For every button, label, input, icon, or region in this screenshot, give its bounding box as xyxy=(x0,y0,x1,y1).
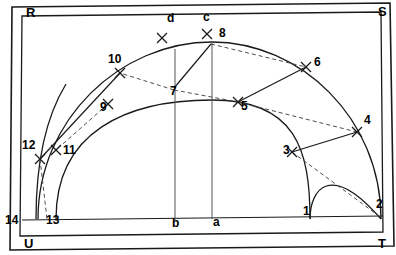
corner-label-r: R xyxy=(26,5,36,20)
mark-d-icon xyxy=(157,33,167,43)
point-label-10: 10 xyxy=(108,52,122,66)
point-label-3: 3 xyxy=(283,143,290,157)
point-label-1: 1 xyxy=(303,204,310,218)
point-label-5: 5 xyxy=(241,99,248,113)
geometric-construction-figure: RSUT dcba 1234567891011121314 xyxy=(0,0,396,255)
corner-label-s: S xyxy=(378,4,387,19)
frame-inner-border xyxy=(20,12,383,236)
mark-c-icon xyxy=(202,29,212,39)
point-label-8: 8 xyxy=(219,26,226,40)
chord-5-6 xyxy=(238,67,306,102)
chord-7-8 xyxy=(174,44,211,88)
corner-label-u: U xyxy=(24,236,33,251)
point-label-4: 4 xyxy=(364,113,371,127)
point-label-12: 12 xyxy=(22,138,36,152)
point-label-2: 2 xyxy=(376,197,383,211)
mark-6-icon xyxy=(301,62,311,72)
dashed-rays-group xyxy=(40,44,379,219)
aux-label-a: a xyxy=(213,215,220,229)
chord-3-4 xyxy=(292,132,357,152)
vertical-lines-group xyxy=(175,42,212,220)
ray-7-10 xyxy=(120,73,174,90)
diagram-root: RSUT dcba 1234567891011121314 xyxy=(0,0,396,255)
point-label-14: 14 xyxy=(5,213,19,227)
point-label-13: 13 xyxy=(46,213,60,227)
inner-semicircle-arc xyxy=(56,100,310,219)
point-label-6: 6 xyxy=(314,55,321,69)
point-labels-group: 1234567891011121314 xyxy=(5,26,383,227)
outer-semicircle-arc xyxy=(38,42,381,219)
corner-label-t: T xyxy=(378,236,386,251)
small-right-arc xyxy=(310,185,381,219)
solid-chords-group xyxy=(40,44,357,159)
point-label-7: 7 xyxy=(170,84,177,98)
cross-marks-group xyxy=(35,29,362,164)
arc-group xyxy=(36,42,381,219)
aux-label-c: c xyxy=(203,10,210,24)
aux-label-b: b xyxy=(172,216,179,230)
corner-labels-group: RSUT xyxy=(24,4,387,251)
baseline xyxy=(22,216,383,220)
point-label-11: 11 xyxy=(63,143,76,157)
aux-label-d: d xyxy=(167,11,174,25)
point-label-9: 9 xyxy=(100,100,107,114)
